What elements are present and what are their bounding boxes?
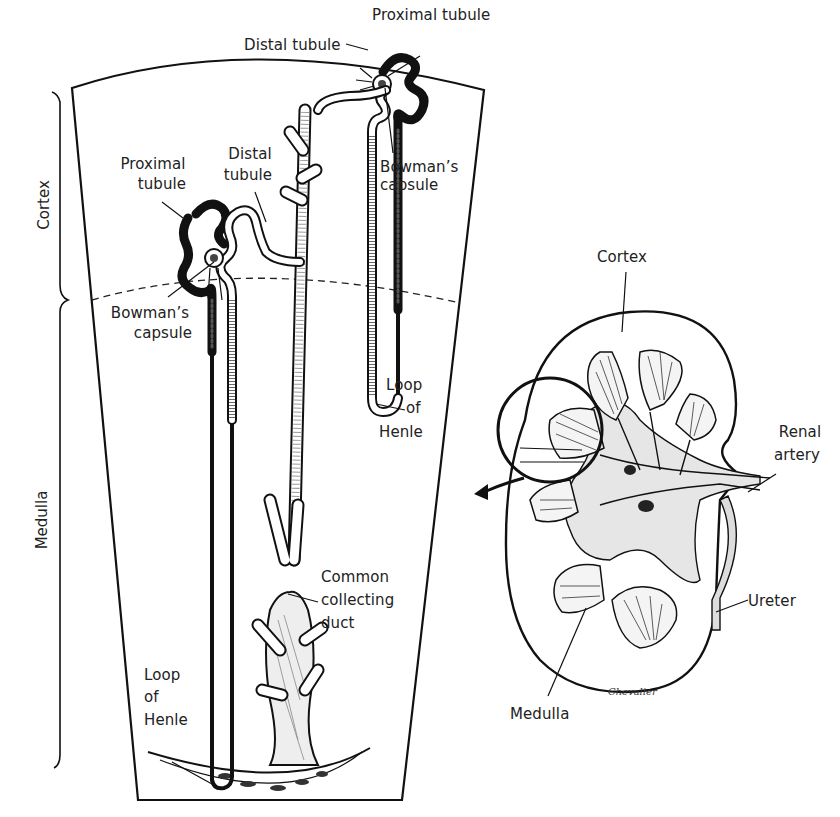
label-collecting-duct: Common	[321, 568, 389, 586]
cortex-medulla-boundary	[92, 278, 460, 303]
label-distal-tubule-left: Distal	[228, 145, 271, 163]
label-loop-of-henle-left-2: of	[144, 688, 159, 706]
label-bowmans-capsule-top-2: capsule	[380, 176, 438, 194]
leader-distal-top	[346, 44, 368, 50]
artist-signature: Chevalier	[608, 686, 658, 697]
label-loop-of-henle-right: Loop	[386, 376, 422, 394]
renal-papilla	[148, 748, 370, 773]
cortex-brace	[52, 92, 68, 312]
collecting-duct	[148, 110, 370, 791]
label-ureter: Ureter	[748, 592, 797, 610]
cortical-nephron	[318, 58, 424, 412]
label-proximal-tubule-left-2: tubule	[138, 175, 186, 193]
label-collecting-duct-2: collecting	[321, 591, 394, 609]
label-renal-artery: Renal	[779, 423, 821, 441]
label-renal-artery-2: artery	[774, 446, 820, 464]
label-bowmans-capsule-top: Bowman’s	[380, 158, 459, 176]
kidney-nephron-diagram: Cortex Medulla	[0, 0, 840, 817]
nephron-panel: Cortex Medulla	[33, 6, 490, 800]
label-proximal-tubule-left: Proximal	[120, 155, 185, 173]
label-bowmans-capsule-left: Bowman’s	[111, 304, 190, 322]
label-distal-tubule-left-2: tubule	[224, 166, 272, 184]
label-collecting-duct-3: duct	[321, 614, 355, 632]
label-loop-of-henle-right-3: Henle	[379, 423, 423, 441]
medulla-region-label: Medulla	[33, 491, 51, 550]
label-loop-of-henle-left-3: Henle	[144, 711, 188, 729]
leader-bowmans-top	[385, 88, 393, 153]
leader-proximal-left	[162, 202, 183, 218]
label-distal-tubule-top: Distal tubule	[244, 36, 341, 54]
medulla-brace	[54, 312, 60, 768]
label-loop-of-henle-left: Loop	[144, 666, 180, 684]
label-kidney-cortex: Cortex	[597, 248, 647, 266]
leader-ureter	[716, 600, 748, 612]
kidney-panel: Cortex Renal artery Ureter Medulla Cheva…	[474, 248, 821, 723]
label-loop-of-henle-right-2: of	[406, 399, 421, 417]
cortex-region-label: Cortex	[35, 180, 53, 230]
label-bowmans-capsule-left-2: capsule	[134, 324, 192, 342]
label-proximal-tubule-top: Proximal tubule	[372, 6, 490, 24]
label-kidney-medulla: Medulla	[510, 705, 569, 723]
